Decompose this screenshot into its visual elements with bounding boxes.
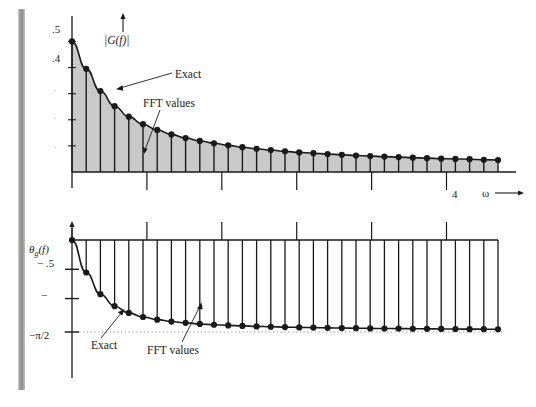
top-ytick-label-0.1: . bbox=[54, 139, 57, 150]
omega-arrow-head bbox=[518, 190, 524, 195]
bottom-fft-sample-dot bbox=[481, 326, 487, 332]
bottom-fft-sample-dot bbox=[424, 326, 430, 332]
bottom-ytick-label-minus-pi-over-2: −π/2 bbox=[29, 330, 49, 341]
bottom-yaxis-arrow-head bbox=[69, 221, 74, 227]
top-ytick-label-0.5: .5 bbox=[52, 24, 60, 35]
omega-axis-label: ω bbox=[482, 188, 489, 199]
top-fft-sample-dot bbox=[225, 142, 231, 148]
top-fft-sample-dot bbox=[140, 121, 146, 127]
top-fft-sample-dot bbox=[310, 150, 316, 156]
top-fft-sample-dot bbox=[83, 66, 89, 72]
top-fft-sample-dot bbox=[282, 148, 288, 154]
bottom-fft-sample-dot bbox=[310, 325, 316, 331]
top-fft-sample-dot bbox=[325, 151, 331, 157]
top-fft-sample-dot bbox=[452, 156, 458, 162]
bottom-fft-sample-dot bbox=[452, 326, 458, 332]
bottom-ytick-label-minus-half: − .5 bbox=[37, 258, 54, 269]
top-fft-sample-dot bbox=[367, 153, 373, 159]
bottom-fft-sample-dot bbox=[381, 325, 387, 331]
bottom-annotation-exact: Exact bbox=[91, 340, 117, 352]
bottom-fft-sample-dot bbox=[154, 317, 160, 323]
bottom-fft-sample-dot bbox=[268, 324, 274, 330]
top-exact-leader-line bbox=[120, 73, 172, 88]
theta-argument: (f) bbox=[38, 243, 48, 255]
bottom-fft-sample-dot bbox=[225, 322, 231, 328]
top-yaxis-label: |G(f)| bbox=[104, 35, 129, 47]
top-annotation-fft-values: FFT values bbox=[143, 98, 195, 110]
top-fft-sample-dot bbox=[239, 144, 245, 150]
bottom-fft-sample-dot bbox=[325, 325, 331, 331]
top-fft-sample-dot bbox=[296, 149, 302, 155]
bottom-fft-sample-dot bbox=[467, 326, 473, 332]
top-fft-sample-dot bbox=[410, 155, 416, 161]
top-fft-sample-dot bbox=[495, 157, 501, 163]
top-ytick-label-0.4: .4 bbox=[52, 53, 60, 64]
bottom-fft-sample-dot bbox=[126, 310, 132, 316]
bottom-fft-sample-dot bbox=[438, 326, 444, 332]
top-ytick-label-0.2: . bbox=[54, 110, 57, 121]
top-fft-sample-dot bbox=[339, 152, 345, 158]
top-fft-sample-dot bbox=[467, 156, 473, 162]
bottom-fft-sample-dot bbox=[410, 326, 416, 332]
top-fft-sample-dot bbox=[126, 114, 132, 120]
top-fft-sample-dot bbox=[211, 140, 217, 146]
top-xtick-label-4: 4 bbox=[452, 189, 458, 200]
bottom-fft-sample-dot bbox=[282, 324, 288, 330]
bottom-annotation-fft-values: FFT values bbox=[147, 345, 199, 357]
bottom-exact-leader-line bbox=[101, 312, 122, 338]
bottom-fft-sample-dot bbox=[353, 325, 359, 331]
figure-artwork bbox=[0, 0, 536, 407]
top-fft-sample-dot bbox=[381, 153, 387, 159]
top-fft-sample-dot bbox=[396, 154, 402, 160]
top-fft-sample-dot bbox=[183, 135, 189, 141]
bottom-fft-sample-dot bbox=[254, 323, 260, 329]
top-yaxis-arrow-head bbox=[120, 13, 125, 19]
bottom-fft-sample-dot bbox=[140, 314, 146, 320]
bottom-fft-sample-dot bbox=[83, 269, 89, 275]
bottom-fft-sample-dot bbox=[112, 303, 118, 309]
bottom-fft-sample-dot bbox=[396, 326, 402, 332]
top-fft-sample-dot bbox=[481, 157, 487, 163]
bottom-fft-sample-dot bbox=[211, 322, 217, 328]
bottom-fft-sample-dot bbox=[183, 320, 189, 326]
bottom-fft-sample-dot bbox=[97, 291, 103, 297]
bottom-fft-sample-dot bbox=[339, 325, 345, 331]
top-fft-sample-dot bbox=[254, 146, 260, 152]
figure-canvas: .5 .4 . . . |G(f)| Exact FFT values 4 ω … bbox=[0, 0, 536, 407]
top-fft-sample-dot bbox=[154, 127, 160, 133]
bottom-fft-sample-dot bbox=[495, 326, 501, 332]
top-fft-sample-dot bbox=[438, 156, 444, 162]
bottom-fft-sample-dot bbox=[197, 321, 203, 327]
bottom-fft-sample-dot bbox=[296, 324, 302, 330]
top-fft-sample-dot bbox=[268, 147, 274, 153]
top-fft-sample-dot bbox=[424, 155, 430, 161]
bottom-fft-sample-dot bbox=[168, 318, 174, 324]
top-fft-sample-dot bbox=[353, 152, 359, 158]
top-ytick-label-0.3: . bbox=[54, 82, 57, 93]
bottom-ytick-label-minus-one: − bbox=[41, 290, 47, 301]
bottom-fft-sample-dot bbox=[367, 325, 373, 331]
top-exact-leader-arrow bbox=[116, 85, 123, 91]
top-fft-sample-dot bbox=[97, 88, 103, 94]
top-fft-sample-dot bbox=[168, 131, 174, 137]
top-fft-sample-dot bbox=[197, 138, 203, 144]
bottom-fft-sample-dot bbox=[239, 323, 245, 329]
top-fft-sample-dot bbox=[112, 103, 118, 109]
top-annotation-exact: Exact bbox=[175, 69, 201, 81]
